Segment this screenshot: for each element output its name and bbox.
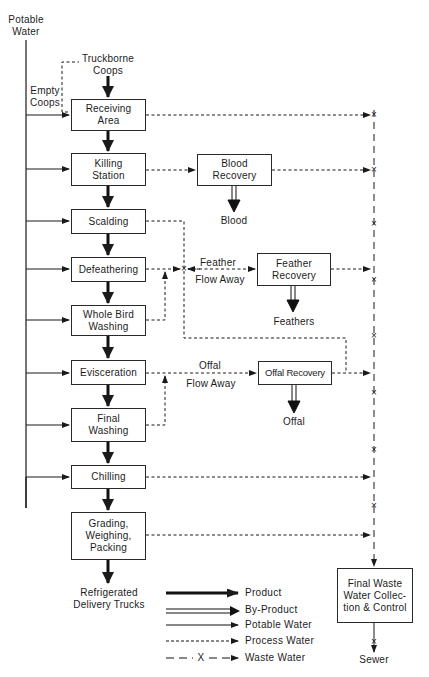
potable-water-label: Potable Water — [4, 14, 48, 38]
feather-flow-label: Feather — [196, 257, 240, 269]
blood-recovery-box: Blood Recovery — [197, 154, 272, 186]
feathers-output-label: Feathers — [264, 316, 324, 328]
offal-recovery-box: Offal Recovery — [258, 361, 332, 385]
offal-flow-label: Offal — [190, 360, 230, 372]
evisceration-box: Evisceration — [71, 360, 146, 385]
waste-marker: × — [369, 387, 379, 399]
waste-marker: × — [369, 330, 379, 342]
feather-flow-away-label: Flow Away — [192, 274, 248, 286]
defeathering-box: Defeathering — [71, 257, 146, 282]
delivery-trucks-label: Refrigerated Delivery Trucks — [68, 587, 150, 611]
legend-product: Product — [245, 587, 282, 599]
grading-weighing-packing-box: Grading, Weighing, Packing — [71, 512, 146, 560]
legend-waste-marker: X — [196, 652, 206, 664]
empty-coops-label: Empty Coops — [28, 85, 62, 109]
waste-marker: × — [369, 218, 379, 230]
junction-marker: × — [179, 263, 189, 275]
feather-recovery-box: Feather Recovery — [257, 253, 331, 286]
waste-marker: × — [369, 636, 379, 648]
waste-marker: × — [369, 164, 379, 176]
final-washing-box: Final Washing — [71, 408, 146, 442]
whole-bird-washing-box: Whole Bird Washing — [71, 305, 146, 336]
waste-marker: × — [369, 500, 379, 512]
legend-process-water: Process Water — [245, 635, 314, 647]
waste-marker: × — [369, 274, 379, 286]
sewer-label: Sewer — [354, 654, 394, 666]
receiving-area-box: Receiving Area — [71, 99, 146, 131]
waste-marker: × — [369, 444, 379, 456]
legend-lines — [166, 593, 240, 658]
legend-potable-water: Potable Water — [245, 619, 312, 631]
potable-water-lines — [26, 40, 69, 508]
chilling-box: Chilling — [71, 465, 146, 489]
legend-by-product: By-Product — [245, 604, 297, 616]
scalding-box: Scalding — [71, 209, 146, 234]
final-waste-collection-box: Final Waste Water Collec- tion & Control — [337, 568, 413, 623]
killing-station-box: Killing Station — [71, 153, 146, 186]
waste-marker: × — [369, 109, 379, 121]
truckborne-coops-label: Truckborne Coops — [78, 53, 138, 77]
offal-output-label: Offal — [266, 416, 322, 428]
blood-output-label: Blood — [204, 215, 264, 227]
offal-flow-away-label: Flow Away — [183, 378, 239, 390]
legend-waste-water: Waste Water — [245, 652, 305, 664]
